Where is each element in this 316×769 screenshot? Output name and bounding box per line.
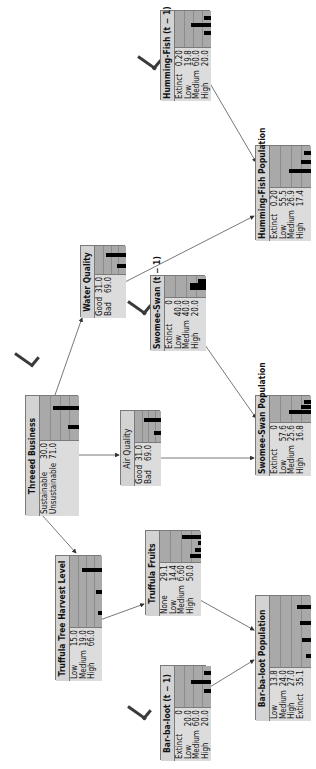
- probability-bar-chart: [270, 596, 311, 668]
- state-list: Low15.0Medium19.0High66.0: [70, 628, 102, 681]
- probability-bar: [68, 425, 79, 429]
- state-probability: 35.1: [297, 670, 306, 686]
- state-label: Bad: [105, 302, 114, 316]
- probability-bar: [204, 31, 211, 35]
- state-row: High20.0: [192, 300, 201, 349]
- state-probability: 50.0: [187, 565, 196, 581]
- probability-bar-chart: [95, 246, 126, 275]
- edge-swomeeprev-swomee: [205, 345, 256, 418]
- node-barbaloot-prev[interactable]: Bar-ba-loot (t − 1)Extinct0Low20.0Medium…: [160, 665, 206, 760]
- probability-bar: [301, 160, 311, 164]
- probability-bar-chart: [70, 556, 102, 628]
- node-barbaloot-pop[interactable]: Bar-ba-loot PopulationLow13.8Medium24.0H…: [255, 595, 310, 720]
- node-title: Bar-ba-loot (t − 1): [161, 666, 175, 761]
- node-swomee-pop[interactable]: Swomee-Swan PopulationExtinct0Low57.6Med…: [255, 395, 310, 475]
- probability-bar: [191, 680, 211, 684]
- probability-bar: [96, 590, 102, 594]
- probability-bar: [304, 151, 311, 155]
- node-humming-prev[interactable]: Humming-Fish (t − 1)Extinct0.20Low19.8Me…: [160, 10, 210, 100]
- probability-bar: [53, 406, 79, 410]
- state-list: Extinct0.20Low55.5Medium26.9High17.4: [270, 188, 311, 241]
- state-probability: 17.4: [297, 190, 306, 206]
- probability-bar: [306, 654, 311, 658]
- probability-bar: [190, 554, 201, 558]
- node-title: Truffula Fruits: [146, 531, 160, 616]
- probability-bar: [191, 23, 211, 27]
- state-row: High66.0: [88, 630, 97, 679]
- node-humming-pop[interactable]: Humming-Fish PopulationExtinct0.20Low55.…: [255, 145, 310, 240]
- state-list: Extinct0Low20.0Medium60.0High20.0: [175, 708, 211, 761]
- state-row: High50.0: [187, 565, 196, 614]
- state-probability: 20.0: [202, 710, 211, 726]
- state-label: Unsustainable: [50, 463, 59, 514]
- probability-bar: [117, 264, 126, 268]
- state-probability: 16.8: [297, 425, 306, 441]
- probability-bar: [302, 638, 311, 642]
- probability-bar: [304, 400, 311, 404]
- probability-bar: [300, 621, 311, 625]
- state-probability: 71.0: [50, 443, 59, 459]
- probability-bar-chart: [270, 146, 311, 188]
- state-row: Unsustainable71.0: [50, 443, 59, 514]
- probability-bar: [289, 169, 311, 173]
- edge-business-water: [55, 318, 82, 395]
- node-swomee-prev[interactable]: Swomee-Swan (t − 1)Extinct0Low40.0Medium…: [150, 275, 205, 350]
- probability-bar: [106, 253, 126, 257]
- probability-bar: [204, 689, 211, 693]
- edge-water-humming: [125, 216, 254, 282]
- probability-bar: [195, 548, 201, 552]
- state-probability: 20.0: [192, 300, 201, 316]
- node-water-quality[interactable]: Water QualityGood31.0Bad69.0: [80, 245, 125, 317]
- state-probability: 66.0: [88, 630, 97, 646]
- probability-bar: [144, 418, 161, 422]
- probability-bar-chart: [40, 396, 79, 441]
- node-truffula-fruits[interactable]: Truffula FruitsNone29.1Low14.4Medium6.60…: [145, 530, 200, 615]
- state-probability: 20.0: [202, 50, 211, 66]
- probability-bar: [82, 568, 102, 572]
- probability-bar: [190, 287, 206, 291]
- state-probability: 69.0: [145, 445, 154, 461]
- probability-bar: [182, 535, 202, 539]
- probability-bar: [198, 279, 206, 283]
- state-label: High: [192, 332, 201, 349]
- state-row: Bad69.0: [145, 445, 154, 484]
- probability-bar-chart: [135, 411, 161, 443]
- state-label: High: [297, 457, 306, 474]
- node-title: Humming-Fish Population: [256, 146, 270, 241]
- state-row: Extinct35.1: [297, 670, 306, 719]
- state-list: Good31.0Bad69.0: [95, 275, 126, 318]
- probability-bar: [289, 410, 311, 414]
- probability-bar-chart: [175, 666, 211, 708]
- state-label: Bad: [145, 470, 154, 484]
- state-label: High: [202, 742, 211, 759]
- state-row: High16.8: [297, 425, 306, 474]
- state-label: Extinct: [297, 694, 306, 719]
- probability-bar: [190, 283, 206, 287]
- probability-bar-chart: [165, 276, 206, 298]
- node-truffula-harvest[interactable]: Truffula Tree Harvest LevelLow15.0Medium…: [55, 555, 101, 680]
- node-air-quality[interactable]: Air QualityGood31.0Bad69.0: [120, 410, 160, 485]
- state-list: Good31.0Bad69.0: [135, 443, 161, 486]
- node-title: Humming-Fish (t − 1): [161, 11, 175, 101]
- probability-bar: [154, 431, 161, 435]
- state-list: Extinct0Low57.6Medium25.6High16.8: [270, 423, 311, 476]
- probability-bar-chart: [270, 396, 311, 423]
- node-title: Air Quality: [121, 411, 135, 486]
- state-list: Low13.8Medium24.0High27.0Extinct35.1: [270, 668, 311, 721]
- node-threeed-business[interactable]: Threeed BusinessSustainable30.0Unsustain…: [25, 395, 78, 515]
- state-label: High: [88, 662, 97, 679]
- edge-business-harvest: [42, 515, 76, 553]
- state-list: Sustainable30.0Unsustainable71.0: [40, 441, 79, 516]
- state-label: High: [187, 597, 196, 614]
- state-row: High17.4: [297, 190, 306, 239]
- node-title: Threeed Business: [26, 396, 40, 516]
- node-title: Truffula Tree Harvest Level: [56, 556, 70, 681]
- state-row: Bad69.0: [105, 277, 114, 316]
- state-row: High20.0: [202, 50, 211, 99]
- probability-bar: [204, 16, 211, 20]
- state-probability: 69.0: [105, 277, 114, 293]
- probability-bar-chart: [160, 531, 201, 563]
- state-label: High: [297, 222, 306, 239]
- state-list: Extinct0Low40.0Medium40.0High20.0: [165, 298, 206, 351]
- node-title: Swomee-Swan Population: [256, 396, 270, 476]
